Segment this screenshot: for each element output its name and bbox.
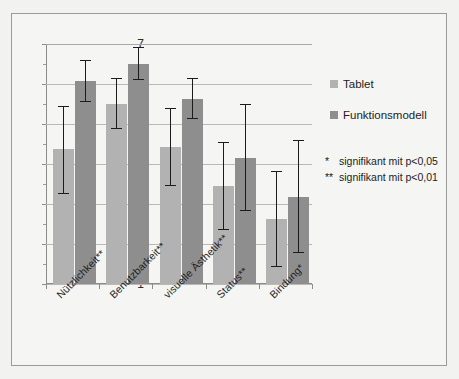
error-cap-top: [240, 104, 251, 105]
error-bar-funktionsmodell-1: [138, 47, 139, 80]
error-cap-bottom: [293, 252, 304, 253]
plot-area: [46, 44, 312, 284]
legend-item-funktionsmodell[interactable]: Funktionsmodell: [330, 109, 445, 121]
y-minor-tick: [43, 104, 46, 105]
note-marker: **: [325, 170, 339, 186]
error-cap-bottom: [187, 118, 198, 119]
error-bar-funktionsmodell-2: [192, 78, 193, 119]
error-cap-top: [80, 60, 91, 61]
significance-note-1: **signifikant mit p<0,01: [325, 170, 455, 186]
x-tick: [312, 284, 313, 289]
y-tick-mark-7: [42, 44, 46, 45]
error-bar-tablet-3: [223, 142, 224, 230]
error-bar-tablet-2: [170, 108, 171, 186]
y-minor-tick: [43, 184, 46, 185]
error-bar-funktionsmodell-4: [298, 140, 299, 253]
error-cap-top: [218, 142, 229, 143]
error-cap-bottom: [111, 128, 122, 129]
y-minor-tick: [43, 224, 46, 225]
error-cap-top: [133, 47, 144, 48]
x-tick: [206, 284, 207, 289]
bar-group: [266, 44, 309, 284]
y-tick-mark-6: [42, 84, 46, 85]
note-text: signifikant mit p<0,01: [339, 170, 438, 186]
legend-label: Tablet: [343, 78, 374, 90]
y-tick-mark-4: [42, 164, 46, 165]
y-minor-tick: [43, 264, 46, 265]
y-minor-tick: [43, 144, 46, 145]
bar-group: [106, 44, 149, 284]
chart-legend: TabletFunktionsmodell: [330, 78, 445, 140]
error-cap-top: [111, 78, 122, 79]
note-marker: *: [325, 154, 339, 170]
x-tick: [152, 284, 153, 289]
bar-tablet-1: [106, 104, 127, 284]
error-cap-bottom: [271, 266, 282, 267]
y-tick-mark-2: [42, 244, 46, 245]
y-minor-tick: [43, 64, 46, 65]
error-cap-top: [58, 106, 69, 107]
error-bar-tablet-1: [116, 78, 117, 128]
legend-swatch-icon: [330, 80, 338, 88]
legend-item-tablet[interactable]: Tablet: [330, 78, 445, 90]
x-tick: [46, 284, 47, 289]
error-bar-tablet-0: [63, 106, 64, 194]
error-cap-top: [165, 108, 176, 109]
y-tick-mark-3: [42, 204, 46, 205]
chart-frame: 1234567 Nützlichkeit**Benutzbarkeit**vis…: [11, 13, 447, 366]
error-cap-bottom: [165, 185, 176, 186]
x-tick: [99, 284, 100, 289]
error-bar-tablet-4: [276, 171, 277, 267]
error-cap-bottom: [240, 210, 251, 211]
error-cap-top: [187, 78, 198, 79]
bar-group: [53, 44, 96, 284]
error-bar-funktionsmodell-3: [245, 104, 246, 211]
error-bar-funktionsmodell-0: [85, 60, 86, 102]
error-cap-bottom: [58, 193, 69, 194]
error-cap-bottom: [218, 229, 229, 230]
significance-note-0: *signifikant mit p<0,05: [325, 154, 455, 170]
legend-swatch-icon: [330, 111, 338, 119]
error-cap-bottom: [80, 101, 91, 102]
note-text: signifikant mit p<0,05: [339, 154, 438, 170]
legend-label: Funktionsmodell: [343, 109, 427, 121]
significance-notes: *signifikant mit p<0,05**signifikant mit…: [325, 154, 455, 186]
y-tick-mark-5: [42, 124, 46, 125]
error-cap-top: [293, 140, 304, 141]
x-tick: [259, 284, 260, 289]
error-cap-top: [271, 171, 282, 172]
error-cap-bottom: [133, 79, 144, 80]
